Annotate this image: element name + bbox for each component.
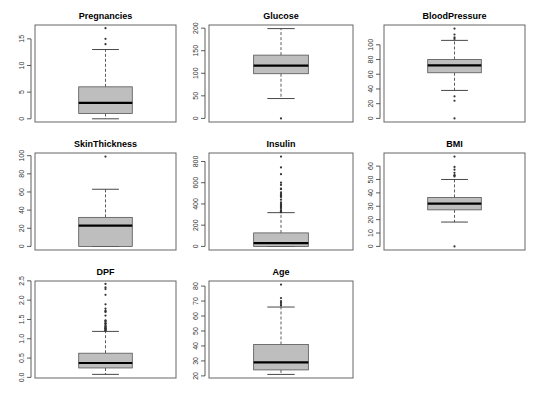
boxplot-panel-bloodpressure: BloodPressure020406080100 (367, 11, 525, 122)
y-tick-label: 0 (192, 244, 199, 248)
y-tick-label: 200 (192, 219, 199, 231)
y-tick-label: 15 (18, 35, 25, 43)
y-tick-label: 800 (192, 156, 199, 168)
y-tick-label: 0 (367, 116, 374, 120)
y-tick-label: 2.5 (18, 276, 25, 286)
outlier-point (280, 199, 282, 201)
outlier-point (104, 314, 106, 316)
y-tick-label: 40 (367, 189, 374, 197)
y-tick-label: 60 (18, 188, 25, 196)
y-tick-label: 30 (367, 202, 374, 210)
y-tick-label: 20 (367, 100, 374, 108)
y-tick-label: 20 (367, 216, 374, 224)
outlier-point (280, 184, 282, 186)
outlier-point (280, 173, 282, 175)
y-tick-label: 70 (192, 297, 199, 305)
outlier-point (104, 38, 106, 40)
y-tick-label: 40 (192, 342, 199, 350)
outlier-point (280, 182, 282, 184)
boxplot-panel-dpf: DPF0.00.51.01.52.02.5 (18, 267, 176, 382)
outlier-point (104, 286, 106, 288)
y-tick-label: 400 (192, 198, 199, 210)
y-axis: 20304050607080 (192, 282, 205, 380)
boxplot-panel-glucose: Glucose050100150200 (192, 11, 353, 122)
y-tick-label: 100 (367, 39, 374, 51)
iqr-box (79, 87, 133, 114)
iqr-box (79, 217, 133, 246)
outlier-point (280, 191, 282, 193)
panels-container: Pregnancies051015Glucose050100150200Bloo… (18, 11, 525, 382)
outlier-point (104, 155, 106, 157)
outlier-point (104, 283, 106, 285)
outlier-point (280, 283, 282, 285)
y-tick-label: 80 (18, 170, 25, 178)
boxplot-grid: Pregnancies051015Glucose050100150200Bloo… (0, 0, 544, 405)
y-axis: 050100150200 (192, 22, 205, 120)
iqr-box (79, 353, 133, 368)
y-tick-label: 100 (192, 67, 199, 79)
y-tick-label: 50 (192, 327, 199, 335)
panel-title: BloodPressure (422, 11, 486, 21)
outlier-point (280, 300, 282, 302)
outlier-point (453, 155, 455, 157)
y-tick-label: 50 (367, 175, 374, 183)
boxplot-panel-skinthickness: SkinThickness020406080100 (18, 139, 176, 250)
outlier-point (104, 309, 106, 311)
y-tick-label: 50 (192, 92, 199, 100)
outlier-point (453, 28, 455, 30)
y-tick-label: 150 (192, 45, 199, 57)
y-tick-label: 20 (192, 372, 199, 380)
outlier-point (104, 27, 106, 29)
y-axis: 020406080100 (367, 39, 380, 120)
boxplot-panel-insulin: Insulin0200400600800 (192, 139, 353, 250)
iqr-box (254, 344, 309, 369)
iqr-box (254, 55, 309, 74)
y-tick-label: 10 (18, 62, 25, 70)
outlier-point (453, 174, 455, 176)
outlier-point (104, 308, 106, 310)
outlier-point (453, 33, 455, 35)
y-axis: 051015 (18, 35, 31, 121)
y-tick-label: 30 (192, 357, 199, 365)
outlier-point (104, 43, 106, 45)
outlier-point (104, 319, 106, 321)
outlier-point (453, 172, 455, 174)
outlier-point (453, 166, 455, 168)
y-axis: 0102030405060 (367, 162, 380, 248)
iqr-box (254, 233, 309, 247)
outlier-point (453, 36, 455, 38)
y-tick-label: 0 (367, 244, 374, 248)
y-tick-label: 40 (18, 206, 25, 214)
y-tick-label: 5 (18, 90, 25, 94)
panel-title: Insulin (267, 139, 296, 149)
y-tick-label: 0.5 (18, 353, 25, 363)
outlier-point (453, 117, 455, 119)
y-tick-label: 60 (192, 312, 199, 320)
y-tick-label: 100 (18, 150, 25, 162)
boxplot-panel-pregnancies: Pregnancies051015 (18, 11, 176, 122)
y-tick-label: 20 (18, 224, 25, 232)
panel-title: BMI (446, 139, 463, 149)
boxplot-panel-age: Age20304050607080 (192, 267, 353, 380)
outlier-point (104, 303, 106, 305)
y-tick-label: 10 (367, 229, 374, 237)
outlier-point (453, 95, 455, 97)
panel-title: SkinThickness (74, 139, 137, 149)
y-tick-label: 1.5 (18, 314, 25, 324)
y-axis: 020406080100 (18, 150, 31, 249)
outlier-point (280, 166, 282, 168)
boxplot-panel-bmi: BMI0102030405060 (367, 139, 525, 250)
panel-title: Pregnancies (79, 11, 133, 21)
y-tick-label: 80 (367, 56, 374, 64)
y-tick-label: 40 (367, 85, 374, 93)
panel-title: DPF (97, 267, 116, 277)
y-tick-label: 600 (192, 177, 199, 189)
panel-title: Glucose (263, 11, 299, 21)
outlier-point (453, 245, 455, 247)
y-tick-label: 200 (192, 22, 199, 34)
outlier-point (104, 294, 106, 296)
outlier-point (453, 100, 455, 102)
y-tick-label: 1.0 (18, 334, 25, 344)
y-axis: 0.00.51.01.52.02.5 (18, 276, 31, 382)
y-tick-label: 0.0 (18, 372, 25, 382)
